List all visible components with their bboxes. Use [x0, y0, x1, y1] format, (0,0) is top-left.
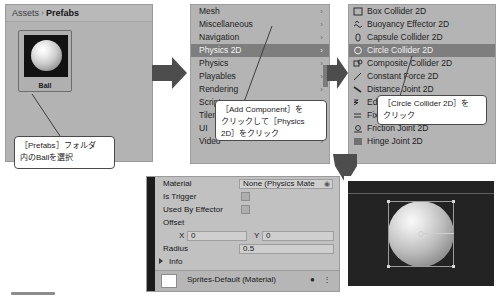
- callout-click-physics-2d: ［Add Component］を クリックして［Physics 2D］をクリック: [215, 100, 327, 141]
- offset-y-tag: Y: [254, 229, 259, 242]
- submenu-item-capsule-collider-2d[interactable]: Capsule Collider 2D: [349, 31, 495, 44]
- menu-item-playables[interactable]: Playables ›: [191, 70, 329, 83]
- breadcrumb: Assets›Prefabs: [12, 8, 79, 18]
- inspector-row-is-trigger: Is Trigger: [155, 190, 339, 203]
- breadcrumb-separator-icon: ›: [39, 8, 46, 18]
- callout-click-circle-collider: ［Circle Collider 2D］を クリック: [377, 95, 487, 125]
- asset-item-ball[interactable]: Ball: [18, 30, 72, 92]
- submenu-item-label: Box Collider 2D: [367, 6, 426, 16]
- gizmo-handle-bl[interactable]: [387, 265, 390, 268]
- is-trigger-label: Is Trigger: [163, 190, 196, 203]
- material-label: Material: [163, 177, 191, 190]
- menu-item-navigation[interactable]: Navigation ›: [191, 31, 329, 44]
- menu-item-label: Physics: [199, 58, 228, 68]
- submenu-item-box-collider-2d[interactable]: Box Collider 2D: [349, 5, 495, 18]
- inspector-gutter: [147, 177, 155, 291]
- submenu-item-label: Capsule Collider 2D: [367, 32, 443, 42]
- collider-radius-gizmo: [424, 233, 454, 234]
- fixed-joint-icon: [353, 111, 363, 120]
- offset-y-field[interactable]: 0: [262, 231, 334, 241]
- radius-label: Radius: [163, 242, 188, 255]
- submenu-item-hinge-joint-2d[interactable]: Hinge Joint 2D: [349, 135, 495, 148]
- asset-item-label: Ball: [19, 82, 71, 89]
- distance-joint-icon: [353, 85, 363, 94]
- assets-grid: Ball ［Prefabs］フォルダ 内のBallを選択: [6, 21, 152, 161]
- material-footer-label: Sprites-Default (Material): [187, 275, 276, 284]
- chevron-right-icon: ›: [320, 44, 323, 57]
- circle-collider-icon: [353, 46, 363, 55]
- menu-item-miscellaneous[interactable]: Miscellaneous ›: [191, 18, 329, 31]
- submenu-item-label: Distance Joint 2D: [367, 84, 434, 94]
- collider-center-handle[interactable]: [418, 231, 424, 237]
- object-picker-icon[interactable]: ◉: [324, 180, 330, 188]
- submenu-item-circle-collider-2d[interactable]: Circle Collider 2D: [349, 44, 495, 57]
- menu-item-rendering[interactable]: Rendering ›: [191, 83, 329, 96]
- menu-item-label: Navigation: [199, 32, 239, 42]
- callout-connector-line: [30, 92, 70, 138]
- radius-field[interactable]: 0.5: [239, 244, 334, 254]
- callout-line-1: ［Prefabs］フォルダ: [20, 140, 109, 152]
- submenu-item-constant-force-2d[interactable]: Constant Force 2D: [349, 70, 495, 83]
- callout-line-3: 2D］をクリック: [221, 128, 321, 140]
- chevron-right-icon: ›: [320, 31, 323, 44]
- submenu-item-label: Hinge Joint 2D: [367, 136, 423, 146]
- callout-select-ball: ［Prefabs］フォルダ 内のBallを選択: [14, 136, 115, 169]
- callout-line-1: ［Circle Collider 2D］を: [383, 98, 481, 110]
- gizmo-handle-tl[interactable]: [387, 200, 390, 203]
- inspector-row-material: Material None (Physics Mate ◉: [155, 177, 339, 190]
- scene-horizon-line: [348, 193, 494, 194]
- edge-collider-icon: [353, 98, 363, 107]
- offset-x-field[interactable]: 0: [187, 231, 247, 241]
- callout-line-2: クリック: [383, 110, 481, 122]
- material-footer[interactable]: Sprites-Default (Material) ● ⋮: [155, 270, 339, 291]
- used-by-effector-label: Used By Effector: [163, 203, 223, 216]
- scene-canvas[interactable]: [348, 181, 494, 286]
- menu-scrollbar[interactable]: [323, 65, 328, 87]
- used-by-effector-checkbox[interactable]: [241, 205, 250, 214]
- scene-preview-panel: [344, 176, 496, 292]
- submenu-item-label: Circle Collider 2D: [367, 45, 433, 55]
- offset-label: Offset: [163, 216, 184, 229]
- menu-item-label: Miscellaneous: [199, 19, 253, 29]
- menu-item-label: Physics 2D: [199, 45, 242, 55]
- gizmo-handle-tr[interactable]: [452, 200, 455, 203]
- bottom-caption-bar: [11, 292, 55, 295]
- menu-item-label: UI: [199, 123, 208, 133]
- menu-item-physics-2d[interactable]: Physics 2D ›: [191, 44, 329, 57]
- callout-line-1: ［Add Component］を: [221, 104, 321, 116]
- material-object-field[interactable]: None (Physics Mate ◉: [239, 179, 333, 189]
- menu-item-label: Mesh: [199, 6, 220, 16]
- sphere-thumbnail-icon: [24, 35, 68, 77]
- flow-arrow-right-1: [152, 56, 188, 90]
- menu-item-physics[interactable]: Physics ›: [191, 57, 329, 70]
- inspector-row-used-by-effector: Used By Effector: [155, 203, 339, 216]
- menu-item-label: Rendering: [199, 84, 238, 94]
- buoyancy-effector-icon: [353, 20, 363, 29]
- capsule-collider-icon: [353, 33, 363, 42]
- composite-collider-icon: [353, 59, 363, 68]
- gizmo-handle-br[interactable]: [452, 265, 455, 268]
- physics-2d-submenu[interactable]: Box Collider 2D Buoyancy Effector 2D Cap…: [348, 4, 496, 164]
- hinge-joint-icon: [353, 137, 363, 146]
- submenu-item-buoyancy-effector-2d[interactable]: Buoyancy Effector 2D: [349, 18, 495, 31]
- flow-arrow-right-2: [327, 56, 349, 90]
- box-collider-icon: [353, 7, 363, 16]
- submenu-item-label: Constant Force 2D: [367, 71, 438, 81]
- submenu-item-composite-collider-2d[interactable]: Composite Collider 2D: [349, 57, 495, 70]
- inspector-row-info[interactable]: Info: [155, 255, 339, 268]
- menu-item-label: Playables: [199, 71, 236, 81]
- inspector-row-radius: Radius 0.5: [155, 242, 339, 255]
- inspector-row-offset: Offset: [155, 216, 339, 229]
- is-trigger-checkbox[interactable]: [241, 192, 250, 201]
- callout-line-2: 内のBallを選択: [20, 152, 109, 164]
- material-swatch-icon: [161, 274, 177, 288]
- menu-item-mesh[interactable]: Mesh ›: [191, 5, 329, 18]
- breadcrumb-current[interactable]: Prefabs: [46, 8, 79, 18]
- inspector-row-offset-xy: X 0 Y 0: [155, 229, 339, 242]
- breadcrumb-root[interactable]: Assets: [12, 8, 39, 18]
- material-footer-icons[interactable]: ● ⋮: [310, 275, 334, 284]
- constant-force-icon: [353, 72, 363, 81]
- foldout-triangle-icon[interactable]: [159, 258, 163, 264]
- submenu-item-label: Composite Collider 2D: [367, 58, 452, 68]
- callout-line-2: クリックして［Physics: [221, 116, 321, 128]
